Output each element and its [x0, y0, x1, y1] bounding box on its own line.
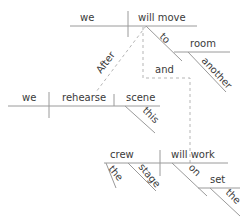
- conjunction-and: and: [155, 64, 174, 75]
- clause1-verb: rehearse: [62, 92, 106, 103]
- main-object-modifier: another: [200, 55, 235, 92]
- main-prep: to: [158, 31, 173, 46]
- clause1-object: scene: [126, 92, 155, 103]
- clause2-verb: will work: [171, 149, 215, 160]
- main-object: room: [190, 38, 216, 49]
- subordinate-clause-1: we rehearse scene this: [8, 92, 161, 133]
- subordinate-clause-2: crew will work the stage on set the: [104, 149, 243, 216]
- clause2-object: set: [210, 174, 225, 185]
- main-clause: we will move to room another: [70, 11, 235, 92]
- main-verb: will move: [138, 12, 186, 23]
- conjunction-after: After: [94, 49, 118, 76]
- clause2-subject: crew: [110, 149, 134, 160]
- clause1-subject: we: [22, 92, 36, 103]
- clause2-prep: on: [187, 162, 204, 179]
- sentence-diagram: we will move to room another After we re…: [0, 0, 252, 221]
- main-subject: we: [80, 12, 94, 23]
- clause2-subject-modifier-the: the: [106, 163, 125, 183]
